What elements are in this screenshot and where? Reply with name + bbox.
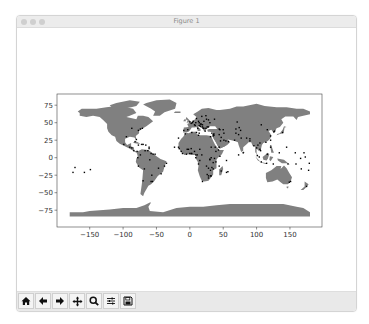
scatter-point: [198, 163, 199, 164]
scatter-point: [257, 155, 258, 156]
scatter-point: [209, 159, 210, 160]
scatter-point: [141, 144, 142, 145]
scatter-point: [240, 130, 241, 131]
scatter-point: [295, 163, 296, 164]
scatter-point: [266, 163, 267, 164]
scatter-point: [142, 180, 143, 181]
land-polygon: [263, 153, 270, 161]
forward-button[interactable]: [52, 293, 68, 309]
scatter-point: [142, 144, 143, 145]
scatter-point: [192, 122, 193, 123]
scatter-point: [286, 147, 287, 148]
scatter-point: [131, 128, 132, 129]
scatter-point: [211, 175, 212, 176]
scatter-point: [202, 126, 203, 127]
arrow-left-icon: [38, 296, 48, 306]
scatter-point: [203, 121, 204, 122]
land-polygon: [174, 112, 181, 113]
window-title: Figure 1: [17, 16, 356, 27]
scatter-point: [196, 118, 197, 119]
scatter-point: [221, 170, 222, 171]
title-bar[interactable]: Figure 1: [17, 16, 356, 28]
scatter-point: [235, 133, 236, 134]
configure-subplots-button[interactable]: [103, 293, 119, 309]
scatter-point: [90, 169, 91, 170]
scatter-point: [194, 124, 195, 125]
scatter-point: [199, 122, 200, 123]
scatter-point: [131, 147, 132, 148]
scatter-point: [239, 127, 240, 128]
scatter-point: [150, 181, 151, 182]
scatter-point: [243, 152, 244, 153]
zoom-button[interactable]: [86, 293, 102, 309]
scatter-point: [199, 125, 200, 126]
back-button[interactable]: [35, 293, 51, 309]
home-icon: [21, 296, 31, 306]
scatter-point: [140, 128, 141, 129]
scatter-point: [208, 126, 209, 127]
scatter-point: [270, 147, 271, 148]
scatter-point: [223, 133, 224, 134]
scatter-point: [129, 147, 130, 148]
scatter-point: [187, 129, 188, 130]
scatter-point: [305, 156, 306, 157]
save-button[interactable]: [120, 293, 136, 309]
scatter-point: [218, 149, 219, 150]
scatter-point: [238, 154, 239, 155]
x-tick-label: 100: [250, 231, 263, 239]
scatter-point: [150, 153, 151, 154]
scatter-point: [187, 149, 188, 150]
scatter-point: [188, 149, 189, 150]
y-tick-label: −50: [38, 189, 53, 197]
scatter-point: [213, 133, 214, 134]
figure-canvas[interactable]: −150−100−50050100150 7550250−25−50−75: [17, 28, 356, 292]
scatter-point: [182, 153, 183, 154]
scatter-point: [210, 136, 211, 137]
navigation-toolbar: [17, 291, 356, 311]
y-tick-label: −25: [38, 172, 53, 180]
scatter-point: [197, 154, 198, 155]
scatter-point: [213, 168, 214, 169]
scatter-point: [287, 163, 288, 164]
y-tick-label: 75: [44, 102, 53, 110]
home-button[interactable]: [18, 293, 34, 309]
scatter-point: [189, 153, 190, 154]
scatter-point: [202, 124, 203, 125]
scatter-point: [261, 124, 262, 125]
scatter-point: [213, 162, 214, 163]
x-tick-label: −150: [80, 231, 99, 239]
pan-button[interactable]: [69, 293, 85, 309]
scatter-point: [213, 135, 214, 136]
scatter-point: [215, 161, 216, 162]
scatter-point: [154, 154, 155, 155]
scatter-point: [226, 160, 227, 161]
scatter-point: [267, 154, 268, 155]
scatter-point: [235, 128, 236, 129]
scatter-point: [246, 137, 247, 138]
scatter-point: [123, 144, 124, 145]
scatter-point: [220, 140, 221, 141]
scatter-point: [227, 171, 228, 172]
scatter-point: [197, 128, 198, 129]
scatter-point: [178, 147, 179, 148]
scatter-point: [273, 131, 274, 132]
scatter-point: [290, 181, 291, 182]
land-polygon: [269, 156, 273, 161]
scatter-point: [133, 150, 134, 151]
land-polygon: [287, 186, 289, 188]
scatter-point: [185, 133, 186, 134]
scatter-point: [144, 150, 145, 151]
scatter-map-plot: −150−100−50050100150 7550250−25−50−75: [17, 28, 356, 292]
scatter-point: [211, 133, 212, 134]
scatter-point: [199, 160, 200, 161]
scatter-point: [223, 140, 224, 141]
scatter-point: [259, 156, 260, 157]
scatter-point: [199, 149, 200, 150]
figure-window: Figure 1 −150−100−50050100150 7550250−25…: [16, 15, 357, 312]
x-tick-label: 50: [219, 231, 228, 239]
scatter-point: [142, 128, 143, 129]
scatter-point: [148, 147, 149, 148]
scatter-point: [215, 147, 216, 148]
scatter-point: [186, 154, 187, 155]
scatter-point: [174, 147, 175, 148]
